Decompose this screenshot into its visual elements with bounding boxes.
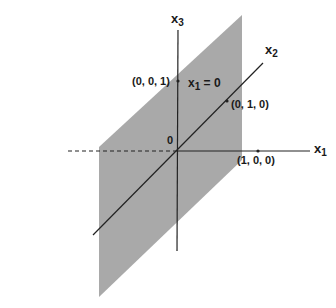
plane-equation-label: x1 = 0	[188, 77, 221, 92]
point-label-0-0-1: (0, 0, 1)	[132, 76, 170, 87]
x1-axis-label: x1	[314, 142, 327, 158]
point-0-0-1	[176, 79, 179, 82]
diagram-canvas	[0, 0, 336, 308]
point-label-1-0-0: (1, 0, 0)	[237, 155, 275, 166]
x2-axis-label: x2	[265, 43, 278, 59]
origin-label: 0	[167, 135, 173, 146]
point-0-1-0	[225, 99, 228, 102]
point-label-0-1-0: (0, 1, 0)	[231, 99, 269, 110]
x3-axis-label: x3	[171, 12, 184, 28]
point-1-0-0	[256, 149, 259, 152]
